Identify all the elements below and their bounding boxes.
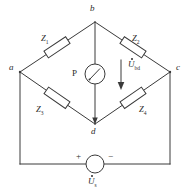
branch-a-b: [20, 22, 95, 72]
node-label-c: c: [176, 63, 180, 72]
bridge-voltage-subscript: bd: [135, 65, 141, 71]
node-label-b: b: [90, 4, 95, 13]
bridge-voltage-label: Ubd: [128, 60, 140, 71]
impedance-z3-body: [44, 87, 70, 108]
impedance-z1-subscript: 1: [46, 39, 49, 45]
circuit-diagram: b a c d Z1 Z2 Z3 Z4 P Ubd + − Us: [0, 0, 190, 193]
detector-label-p: P: [72, 69, 77, 78]
branch-d-c: [95, 72, 170, 124]
source-plus-sign: +: [76, 152, 81, 161]
bridge-voltage-arrow: [118, 60, 125, 90]
circuit-schematic-svg: [0, 0, 190, 193]
node-label-a: a: [9, 63, 14, 72]
impedance-label-z3: Z3: [36, 105, 43, 116]
impedance-z4-subscript: 4: [144, 110, 147, 116]
bridge-voltage-overdot: [131, 58, 133, 60]
source-label: Us: [88, 177, 97, 188]
source-minus-sign: −: [108, 152, 113, 161]
impedance-label-z4: Z4: [139, 105, 146, 116]
source-overdot: [91, 175, 93, 177]
branch-a-d: [20, 72, 95, 124]
bridge-diagonal-b-d: [85, 22, 105, 124]
impedance-z2-subscript: 2: [137, 39, 140, 45]
source-subscript: s: [95, 182, 97, 188]
impedance-label-z2: Z2: [132, 34, 139, 45]
impedance-z3-subscript: 3: [41, 110, 44, 116]
node-label-d: d: [91, 127, 96, 136]
impedance-label-z1: Z1: [41, 34, 48, 45]
